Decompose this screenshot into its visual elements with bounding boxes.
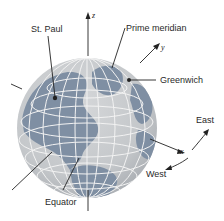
greenwich-label: Greenwich [160,76,203,85]
equator-label: Equator [45,198,77,207]
x-axis [150,139,182,152]
y-axis [140,46,157,63]
prime-meridian-label: Prime meridian [126,24,187,33]
x-axis-label: x [180,148,184,156]
left-tick [11,84,22,89]
y-axis-label: y [161,44,165,52]
st-paul-label: St. Paul [31,25,63,34]
east-label: East [196,116,214,125]
west-label: West [146,170,166,179]
z-axis-label: z [92,12,95,20]
prime-meridian-leader [112,28,125,68]
east-arrow [192,132,207,150]
